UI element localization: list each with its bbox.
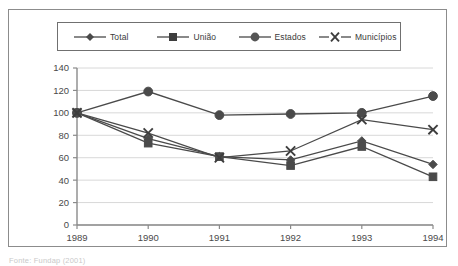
data-series [72, 87, 437, 180]
figure-caption: Fonte: Fundap (2001) [9, 256, 86, 265]
svg-text:120: 120 [53, 85, 69, 96]
series-estados [73, 87, 438, 119]
svg-text:60: 60 [58, 152, 69, 163]
svg-text:1993: 1993 [351, 232, 372, 243]
series-total [73, 109, 437, 169]
svg-text:100: 100 [53, 107, 69, 118]
svg-text:80: 80 [58, 130, 69, 141]
chart-plot-area: 020406080100120140 198919901991199219931… [9, 10, 448, 248]
svg-text:20: 20 [58, 197, 69, 208]
chart-canvas: 020406080100120140 198919901991199219931… [9, 10, 448, 248]
svg-text:1989: 1989 [66, 232, 87, 243]
svg-text:0: 0 [64, 219, 69, 230]
svg-text:40: 40 [58, 175, 69, 186]
x-tick-labels: 198919901991199219931994 [66, 225, 443, 243]
series-unio [73, 109, 437, 181]
svg-text:140: 140 [53, 62, 69, 73]
chart-figure: Total União Estados Municípios [8, 9, 447, 247]
y-tick-labels: 020406080100120140 [53, 62, 77, 230]
svg-text:1991: 1991 [209, 232, 230, 243]
svg-text:1994: 1994 [422, 232, 443, 243]
svg-text:1992: 1992 [280, 232, 301, 243]
svg-text:1990: 1990 [138, 232, 159, 243]
